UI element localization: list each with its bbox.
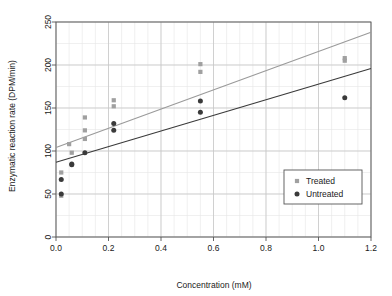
x-tick-label-0: 0.0 [50, 243, 62, 253]
data-point-treated-4 [83, 115, 87, 119]
data-point-untreated-7 [198, 99, 203, 104]
x-tick-label-6: 1.2 [365, 243, 377, 253]
data-point-untreated-0 [59, 177, 64, 182]
x-tick-label-2: 0.4 [155, 243, 167, 253]
y-tick-label-0: 0 [43, 234, 53, 239]
scatter-chart: 0.00.20.40.60.81.01.2 050100150200250 Tr… [0, 0, 392, 296]
data-point-treated-8 [112, 104, 116, 108]
legend-label-treated: Treated [306, 176, 335, 186]
data-point-treated-5 [83, 128, 87, 132]
data-point-treated-2 [67, 142, 71, 146]
data-point-treated-3 [70, 151, 74, 155]
data-point-treated-6 [83, 137, 87, 141]
data-point-untreated-5 [111, 121, 116, 126]
x-tick-label-5: 1.0 [313, 243, 325, 253]
legend-marker-treated [295, 179, 299, 183]
y-axis-title: Enzymatic reaction rate (DPM/min) [7, 60, 17, 192]
data-point-untreated-6 [111, 128, 116, 133]
x-tick-label-1: 0.2 [103, 243, 115, 253]
x-axis-title: Concentration (mM) [176, 280, 251, 290]
y-tick-label-3: 150 [43, 101, 53, 115]
x-tick-label-4: 0.8 [260, 243, 272, 253]
legend-marker-untreated [295, 192, 300, 197]
data-point-treated-0 [59, 170, 63, 174]
data-point-treated-9 [198, 62, 202, 66]
y-tick-label-2: 100 [43, 144, 53, 158]
data-point-treated-12 [343, 59, 347, 63]
data-point-untreated-1 [59, 192, 64, 197]
data-point-treated-7 [112, 98, 116, 102]
x-tick-label-3: 0.6 [208, 243, 220, 253]
y-tick-label-1: 50 [43, 189, 53, 199]
legend: TreatedUntreated [284, 170, 362, 204]
chart-page: 0.00.20.40.60.81.01.2 050100150200250 Tr… [0, 0, 392, 296]
data-point-untreated-9 [342, 95, 347, 100]
y-tick-label-5: 250 [43, 15, 53, 29]
data-point-treated-10 [198, 70, 202, 74]
data-point-untreated-8 [198, 110, 203, 115]
data-point-untreated-4 [82, 150, 87, 155]
y-tick-label-4: 200 [43, 58, 53, 72]
legend-label-untreated: Untreated [306, 189, 344, 199]
data-point-untreated-3 [69, 162, 74, 167]
